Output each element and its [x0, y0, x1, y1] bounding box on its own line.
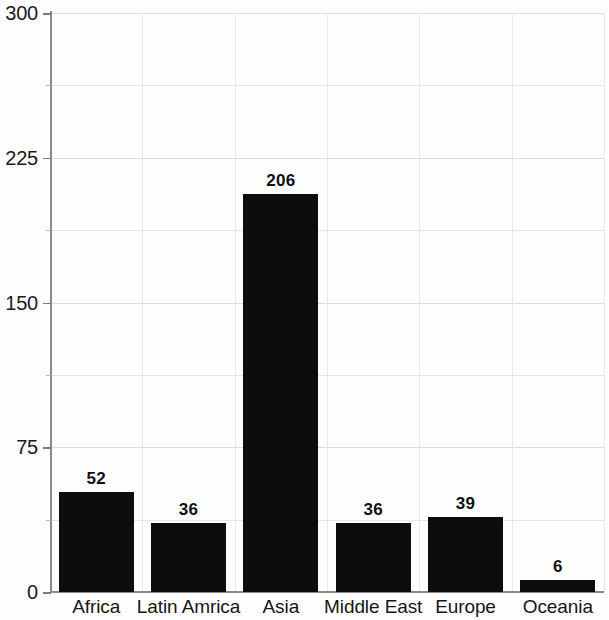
- y-tick-major: [43, 158, 51, 160]
- bar: [428, 517, 503, 592]
- bar-value-label: 36: [141, 501, 236, 518]
- y-tick-minor: [46, 230, 51, 231]
- y-tick-minor: [46, 375, 51, 376]
- bar: [336, 523, 411, 592]
- bar-value-label: 52: [49, 470, 144, 487]
- y-axis-tick-label: 225: [0, 148, 38, 168]
- y-tick-major: [43, 592, 51, 594]
- bar-value-label: 39: [418, 495, 513, 512]
- bar: [520, 580, 595, 592]
- y-axis-tick-label: 300: [0, 3, 38, 23]
- y-axis-tick-label: 75: [0, 437, 38, 457]
- bar: [59, 492, 134, 592]
- y-tick-major: [43, 447, 51, 449]
- y-tick-minor: [46, 520, 51, 521]
- x-axis-category-label: Oceania: [498, 596, 609, 618]
- bar-value-label: 206: [233, 172, 328, 189]
- bar: [151, 523, 226, 592]
- bar: [243, 194, 318, 592]
- y-axis-tick-label: 150: [0, 293, 38, 313]
- bar-value-label: 6: [510, 558, 605, 575]
- y-axis-tick-label: 0: [0, 582, 38, 602]
- y-tick-minor: [46, 85, 51, 86]
- gridline-vertical: [604, 13, 605, 592]
- y-tick-major: [43, 13, 51, 15]
- y-tick-major: [43, 303, 51, 305]
- bar-value-label: 36: [326, 501, 421, 518]
